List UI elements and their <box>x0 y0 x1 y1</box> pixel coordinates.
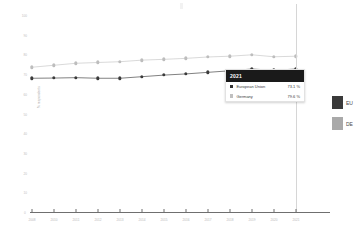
x-axis-tickmark-2008 <box>32 209 33 213</box>
y-axis-tick-80: 80 <box>13 53 27 57</box>
x-axis-tickmark-2012 <box>98 209 99 213</box>
y-axis-tick-10: 10 <box>13 191 27 195</box>
x-axis-tick-2010: 2010 <box>50 218 57 222</box>
x-axis-tick-2014: 2014 <box>138 218 145 222</box>
plot-area: % respondents 100908070605040302010 0 20… <box>30 16 312 213</box>
tooltip-name-germany: Germany <box>236 94 287 99</box>
x-axis-tickmark-2011 <box>76 209 77 213</box>
x-axis-tick-2020: 2020 <box>270 218 277 222</box>
x-axis-tickmark-2020 <box>274 209 275 213</box>
y-axis-tick-70: 70 <box>13 73 27 77</box>
tooltip-swatch-european-union <box>230 85 233 88</box>
series-lines <box>30 16 312 213</box>
legend-swatch-eu <box>332 96 343 109</box>
legend-swatch-de <box>332 117 343 130</box>
x-axis-tickmark-2021 <box>296 209 297 213</box>
tooltip-year: 2021 <box>226 70 304 82</box>
x-axis-tick-2012: 2012 <box>94 218 101 222</box>
y-axis-tick-30: 30 <box>13 152 27 156</box>
legend-item-eu[interactable]: EU <box>332 96 353 109</box>
y-axis-tick-90: 90 <box>13 34 27 38</box>
tooltip-row-european-union: European Union 73.1 % <box>226 82 304 91</box>
chart-tooltip: 2021 European Union 73.1 % Germany 79.6 … <box>225 69 305 102</box>
tooltip-value-european-union: 73.1 % <box>288 84 300 89</box>
x-axis-tickmark-2013 <box>120 209 121 213</box>
legend-label-de: DE <box>346 121 353 127</box>
tooltip-value-germany: 79.6 % <box>288 94 300 99</box>
x-axis-tickmark-2018 <box>230 209 231 213</box>
x-axis-tick-2016: 2016 <box>182 218 189 222</box>
x-axis-tick-2021: 2021 <box>292 218 299 222</box>
x-axis-tick-2017: 2017 <box>204 218 211 222</box>
y-axis-zero-label: 0 <box>24 211 26 215</box>
x-axis-tick-2019: 2019 <box>248 218 255 222</box>
x-axis-tick-2018: 2018 <box>226 218 233 222</box>
y-axis-tick-20: 20 <box>13 172 27 176</box>
x-axis-tick-2008: 2008 <box>28 218 35 222</box>
x-axis-tickmark-2016 <box>186 209 187 213</box>
chart-legend: EU DE <box>332 96 353 138</box>
x-axis-tickmark-2017 <box>208 209 209 213</box>
y-axis-tick-50: 50 <box>13 113 27 117</box>
hover-guide-line <box>296 4 297 213</box>
tooltip-row-germany: Germany 79.6 % <box>226 91 304 100</box>
y-axis-tick-40: 40 <box>13 132 27 136</box>
y-axis-tick-100: 100 <box>13 14 27 18</box>
tooltip-swatch-germany <box>230 94 233 97</box>
chart-page: % respondents 100908070605040302010 0 20… <box>0 0 362 233</box>
x-axis-tickmark-2010 <box>54 209 55 213</box>
x-axis-tick-2013: 2013 <box>116 218 123 222</box>
x-axis-tick-2011: 2011 <box>73 218 80 222</box>
tooltip-name-european-union: European Union <box>236 84 287 89</box>
x-axis-tickmark-2014 <box>142 209 143 213</box>
legend-label-eu: EU <box>346 100 353 106</box>
x-axis-tickmark-2015 <box>164 209 165 213</box>
x-axis-tickmark-2019 <box>252 209 253 213</box>
x-axis-tick-2015: 2015 <box>160 218 167 222</box>
top-marker-icon <box>180 3 183 9</box>
y-axis-tick-60: 60 <box>13 93 27 97</box>
legend-item-de[interactable]: DE <box>332 117 353 130</box>
